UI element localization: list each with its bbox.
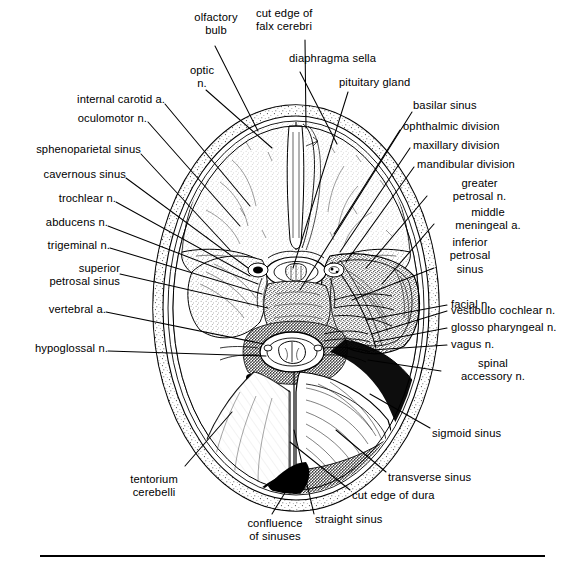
label-maxillary-division: maxillary division xyxy=(413,139,563,152)
label-trochlear-n: trochlear n. xyxy=(16,192,116,205)
label-glosso-pharyngeal-n: glosso pharyngeal n. xyxy=(451,321,576,334)
label-pituitary-gland: pituitary gland xyxy=(339,76,459,89)
label-olfactory-bulb: olfactory bulb xyxy=(176,11,256,38)
label-middle-meningeal-a: middle meningeal a. xyxy=(433,206,543,233)
label-ophthalmic-division: ophthalmic division xyxy=(403,120,553,133)
label-superior-petrosal-sinus: superior petrosal sinus xyxy=(8,262,120,289)
label-tentorium-cerebelli: tentorium cerebelli xyxy=(106,473,202,500)
label-transverse-sinus: transverse sinus xyxy=(388,471,518,484)
label-diaphragma-sella: diaphragma sella xyxy=(289,52,419,65)
label-confluence-of-sinuses: confluence of sinuses xyxy=(228,517,322,544)
label-internal-carotid-a: internal carotid a. xyxy=(20,93,165,106)
label-cut-edge-falx-cerebri: cut edge of falx cerebri xyxy=(256,7,366,34)
label-sigmoid-sinus: sigmoid sinus xyxy=(432,427,542,440)
label-abducens-n: abducens n. xyxy=(10,216,108,229)
label-trigeminal-n: trigeminal n. xyxy=(10,239,110,252)
label-vertebral-a: vertebral a. xyxy=(16,303,106,316)
label-basilar-sinus: basilar sinus xyxy=(413,99,523,112)
label-optic-n: optic n. xyxy=(172,64,232,91)
label-inferior-petrosal-sinus: inferior petrosal sinus xyxy=(431,236,509,276)
label-vagus-n: vagus n. xyxy=(451,338,541,351)
label-sphenoparietal-sinus: sphenoparietal sinus xyxy=(0,143,141,156)
label-vestibulo-cochlear-n: vestibulo cochlear n. xyxy=(451,304,576,317)
label-hypoglossal-n: hypoglossal n. xyxy=(4,342,108,355)
label-mandibular-division: mandibular division xyxy=(417,158,572,171)
label-spinal-accessory-n: spinal accessory n. xyxy=(438,357,548,384)
label-straight-sinus: straight sinus xyxy=(315,513,425,526)
label-greater-petrosal-n: greater petrosal n. xyxy=(427,177,532,204)
label-cavernous-sinus: cavernous sinus xyxy=(6,168,126,181)
label-cut-edge-of-dura: cut edge of dura xyxy=(352,489,482,502)
label-oculomotor-n: oculomotor n. xyxy=(20,112,147,125)
